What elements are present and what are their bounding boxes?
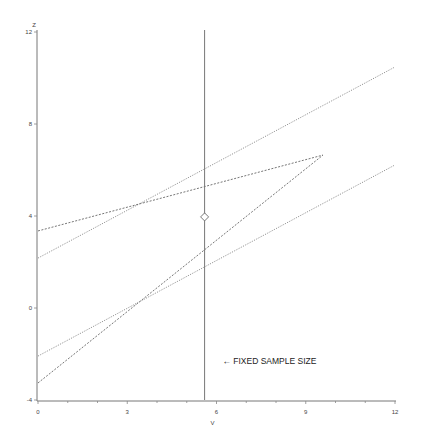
y-tick-label: 0 [29, 305, 33, 311]
series-line-0 [38, 67, 395, 258]
series-line-2 [38, 155, 323, 383]
x-tick-label: 12 [392, 409, 399, 415]
y-tick-label: 12 [25, 29, 32, 35]
y-axis-label: Z [32, 22, 36, 28]
series-line-1 [38, 155, 323, 231]
series-line-3 [38, 165, 395, 356]
x-tick-label: 6 [215, 409, 219, 415]
y-tick-label: 4 [29, 213, 33, 219]
x-tick-label: 3 [126, 409, 130, 415]
y-tick-label: 8 [29, 121, 33, 127]
annotation-fixed-sample-size: ← FIXED SAMPLE SIZE [222, 356, 316, 366]
x-tick-label: 0 [36, 409, 40, 415]
diamond-marker [201, 213, 209, 221]
y-tick-label: -4 [27, 397, 33, 403]
x-axis-label: V [210, 420, 214, 426]
x-tick-label: 9 [304, 409, 308, 415]
chart: 036912-404812VZ← FIXED SAMPLE SIZE [0, 0, 422, 446]
